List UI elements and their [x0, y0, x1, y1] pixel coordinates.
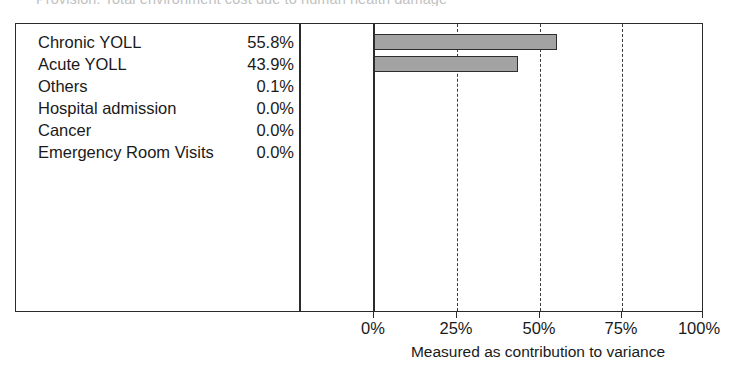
row-label: Cancer: [38, 120, 91, 142]
bar-acute-yoll: [374, 56, 518, 72]
table-row: Acute YOLL 43.9%: [16, 54, 702, 76]
row-bar-track: [374, 76, 702, 98]
tick-label-0: 0%: [361, 318, 385, 338]
row-bar-track: [374, 98, 702, 120]
row-bar-track: [374, 142, 702, 164]
document-title: Provision: Total environment cost due to…: [36, 0, 696, 6]
row-value: 0.0%: [202, 98, 294, 120]
table-row: Cancer 0.0%: [16, 120, 702, 142]
table-row: Emergency Room Visits 0.0%: [16, 142, 702, 164]
row-value: 0.0%: [202, 142, 294, 164]
chart-rows: Chronic YOLL 55.8% Acute YOLL 43.9% Othe…: [16, 32, 702, 164]
row-label: Acute YOLL: [38, 54, 127, 76]
chart-frame: Chronic YOLL 55.8% Acute YOLL 43.9% Othe…: [15, 23, 703, 312]
row-label: Hospital admission: [38, 98, 176, 120]
table-row: Others 0.1%: [16, 76, 702, 98]
tick-label-25: 25%: [439, 318, 472, 338]
row-value: 0.0%: [202, 120, 294, 142]
row-label: Emergency Room Visits: [38, 142, 214, 164]
row-value: 55.8%: [202, 32, 294, 54]
row-value: 43.9%: [202, 54, 294, 76]
row-bar-track: [374, 120, 702, 142]
tick-label-50: 50%: [522, 318, 555, 338]
axis-caption: Measured as contribution to variance: [373, 342, 703, 361]
row-bar-track: [374, 32, 702, 54]
tick-label-75: 75%: [604, 318, 637, 338]
row-value: 0.1%: [202, 76, 294, 98]
row-label: Others: [38, 76, 88, 98]
x-axis: 0% 25% 50% 75% 100% Measured as contribu…: [15, 312, 703, 367]
row-bar-track: [374, 54, 702, 76]
row-label: Chronic YOLL: [38, 32, 141, 54]
bar-chronic-yoll: [374, 34, 557, 50]
table-row: Hospital admission 0.0%: [16, 98, 702, 120]
table-row: Chronic YOLL 55.8%: [16, 32, 702, 54]
tick-label-100: 100%: [678, 318, 720, 338]
